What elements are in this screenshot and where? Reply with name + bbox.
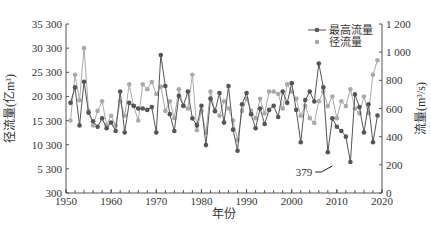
data-point — [82, 46, 87, 51]
y-left-tick-label: 35 300 — [32, 18, 63, 30]
y-left-tick-label: 15 300 — [32, 115, 63, 127]
data-point — [330, 94, 335, 99]
data-point — [163, 109, 168, 114]
data-point — [267, 108, 272, 113]
legend: 最高流量径流量 — [308, 23, 373, 48]
data-point — [307, 116, 312, 121]
data-point — [163, 84, 168, 89]
data-point — [317, 61, 322, 66]
series-line-max-flow — [71, 55, 378, 162]
data-point — [258, 97, 263, 102]
data-point — [199, 103, 204, 108]
data-point — [131, 103, 136, 108]
x-tick-label: 1950 — [55, 195, 78, 207]
data-point — [244, 91, 249, 96]
data-point — [240, 102, 245, 107]
data-point — [91, 119, 96, 124]
chart-canvas: 3005 30010 30015 30020 30025 30030 30035… — [0, 0, 431, 231]
x-tick-label: 1980 — [190, 195, 213, 207]
data-point — [280, 106, 285, 111]
data-point — [168, 112, 173, 117]
legend-label-runoff: 径流量 — [329, 35, 362, 48]
data-point — [276, 115, 281, 120]
data-point — [68, 118, 73, 123]
y-right-tick-label: 1 000 — [386, 46, 411, 58]
data-point — [68, 101, 73, 106]
data-point — [159, 53, 164, 58]
data-point — [77, 123, 82, 128]
data-point — [267, 89, 272, 94]
data-point — [145, 87, 150, 92]
data-point — [186, 106, 191, 111]
y-right-tick-label: 400 — [386, 131, 403, 143]
data-point — [294, 108, 299, 113]
data-point — [77, 98, 82, 103]
data-point — [82, 79, 87, 84]
data-point — [149, 105, 154, 110]
data-point — [362, 94, 367, 99]
data-point — [204, 143, 209, 148]
y-right-tick-label: 1 200 — [386, 18, 411, 30]
data-point — [222, 120, 227, 125]
y-left-tick-label: 30 300 — [32, 42, 63, 54]
data-point — [249, 112, 254, 117]
data-point — [226, 106, 231, 111]
x-tick-label: 2000 — [281, 195, 304, 207]
data-point — [186, 89, 191, 94]
data-point — [362, 130, 367, 135]
data-point — [109, 113, 114, 118]
data-point — [276, 92, 281, 97]
data-point — [231, 127, 236, 132]
data-point — [262, 111, 267, 116]
legend-label-max-flow: 最高流量 — [329, 23, 373, 36]
data-point — [181, 103, 186, 108]
y-right-tick-label: 200 — [386, 159, 403, 171]
data-point — [285, 101, 290, 106]
x-tick-label: 1990 — [236, 195, 259, 207]
data-point — [208, 96, 213, 101]
data-point — [326, 150, 331, 155]
data-point — [375, 58, 380, 63]
y-right-tick-label: 600 — [386, 103, 403, 115]
data-point — [307, 89, 312, 94]
x-tick-label: 2010 — [326, 195, 349, 207]
series-layer: 379 — [68, 46, 380, 178]
x-tick-label: 1970 — [145, 195, 168, 207]
data-point — [217, 91, 222, 96]
data-point — [366, 102, 371, 107]
annotation-label: 379 — [296, 166, 313, 178]
data-point — [326, 104, 331, 109]
data-point — [235, 148, 240, 153]
data-point — [339, 129, 344, 134]
data-point — [226, 84, 231, 89]
data-point — [339, 99, 344, 104]
data-point — [154, 92, 159, 97]
data-point — [140, 106, 145, 111]
data-point — [73, 72, 78, 77]
data-point — [118, 89, 123, 94]
data-point — [371, 140, 376, 145]
data-point — [109, 120, 114, 125]
legend-marker-runoff — [315, 40, 320, 45]
y-right-axis-title: 流量(m³/s) — [414, 82, 428, 135]
data-point — [213, 109, 218, 114]
data-point — [321, 85, 326, 90]
data-point — [73, 85, 78, 90]
data-point — [100, 99, 105, 104]
data-point — [289, 81, 294, 86]
data-point — [357, 105, 362, 110]
data-point — [122, 130, 127, 135]
data-point — [190, 72, 195, 77]
data-point — [231, 118, 236, 123]
data-point — [136, 118, 141, 123]
data-point — [262, 122, 267, 127]
data-point — [312, 99, 317, 104]
data-point — [312, 121, 317, 126]
data-point — [303, 98, 308, 103]
data-point — [344, 104, 349, 109]
data-point — [285, 82, 290, 87]
data-point — [335, 125, 340, 130]
data-point — [172, 129, 177, 134]
data-point — [145, 108, 150, 113]
legend-marker-max-flow — [315, 28, 320, 33]
